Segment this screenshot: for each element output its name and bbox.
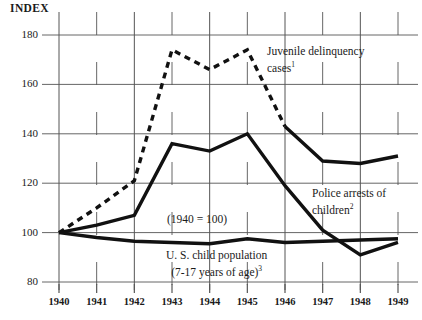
x-tick-label-1945: 1945 [227,296,267,307]
annotation-population-line1: U. S. child population [166,248,267,262]
annotation-juvenile-line2: cases1 [267,58,364,75]
footnote-marker-1: 1 [291,60,295,69]
series-lines [59,50,398,255]
annotation-juvenile-line1: Juvenile delinquency [267,44,364,58]
y-tick-label-180: 180 [8,28,38,40]
annotation-juvenile-delinquency: Juvenile delinquency cases1 [267,44,364,75]
y-tick-label-80: 80 [8,275,38,287]
annotation-police-line1: Police arrests of [312,186,386,200]
y-tick-label-160: 160 [8,77,38,89]
x-tick-label-1946: 1946 [265,296,305,307]
x-tick-label-1941: 1941 [77,296,117,307]
annotation-population-line2: (7-17 years of age)3 [166,262,267,279]
y-tick-label-100: 100 [8,226,38,238]
x-tick-label-1947: 1947 [303,296,343,307]
y-tick-label-140: 140 [8,127,38,139]
x-tick-label-1949: 1949 [378,296,418,307]
x-tick-label-1944: 1944 [190,296,230,307]
annotation-base-index: (1940 = 100) [167,212,227,226]
x-axis-ticks [59,284,398,293]
x-tick-label-1948: 1948 [340,296,380,307]
x-tick-label-1943: 1943 [152,296,192,307]
footnote-marker-3: 3 [258,264,262,273]
annotation-police-line2: children2 [312,200,386,217]
series-line-2 [59,233,398,244]
chart-container: INDEX 80100120140160180 1940194119421943… [0,0,422,320]
annotation-child-population: U. S. child population (7-17 years of ag… [166,248,267,279]
y-tick-label-120: 120 [8,176,38,188]
annotation-police-arrests: Police arrests of children2 [312,186,386,217]
x-tick-label-1940: 1940 [39,296,79,307]
x-tick-label-1942: 1942 [114,296,154,307]
footnote-marker-2: 2 [350,202,354,211]
series-line-0-solid [285,126,398,163]
